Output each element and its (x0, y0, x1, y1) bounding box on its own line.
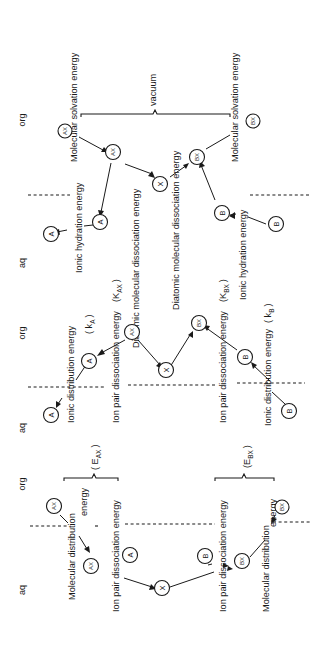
vacuum-label: vacuum (148, 73, 158, 106)
node-a-aq-top: A (44, 227, 59, 242)
E-ax-label: ( EAX) (90, 445, 102, 470)
phase-label-org-bot: org (17, 477, 27, 490)
k-a-label: ( kA) (84, 314, 96, 334)
ion-pair-dissociation-ax-bot-label: Ion pair dissociation energy (111, 500, 121, 612)
K-bx-label: (KBX) (218, 279, 230, 302)
svg-text:A: A (85, 358, 94, 363)
phase-labels: org aq org aq org aq (17, 113, 27, 595)
ion-pair-dissociation-bx-bot-label: Ion pair dissociation energy (218, 500, 228, 612)
node-bx-org-top: BX (190, 150, 205, 165)
node-bx-org-mid: BX (192, 316, 207, 331)
svg-text:AX: AX (51, 502, 57, 510)
svg-text:A: A (47, 412, 56, 417)
phase-label-aq-bot: aq (17, 585, 27, 595)
node-b-aq-top: B (269, 217, 284, 232)
svg-text:BX: BX (194, 153, 200, 161)
svg-text:AX: AX (110, 148, 116, 156)
svg-text:B: B (272, 221, 281, 226)
node-ax-vacuum: AX (58, 124, 72, 138)
svg-text:X: X (156, 181, 165, 186)
ionic-distribution-a-label: Ionic distribution energy (66, 326, 76, 423)
molecular-solvation-bx-label: Molecular solvation energy (230, 52, 240, 162)
ion-pair-dissociation-ax-label: Ion pair dissociation energy (111, 311, 121, 423)
node-ax-aq-bot: AX (84, 559, 99, 574)
k-b-label: ( kB) (263, 303, 275, 323)
svg-text:B: B (218, 210, 227, 215)
svg-text:B: B (201, 553, 210, 558)
ionic-hydration-b-label: Ionic hydration energy (238, 209, 248, 300)
node-ax-org-bot: AX (47, 499, 62, 514)
node-a-org-top: A (93, 215, 108, 230)
node-a-aq-bot: A (123, 548, 138, 563)
svg-text:A: A (126, 552, 135, 557)
middle-panel: Ionic distribution energy ( kA) Ion pair… (44, 279, 297, 426)
node-b-aq-bot: B (198, 549, 213, 564)
svg-text:BX: BX (279, 503, 285, 511)
molecular-distribution-ax-label-2: energy (79, 488, 89, 516)
svg-text:X: X (158, 585, 167, 590)
node-a-aq-mid: A (44, 408, 59, 423)
node-b-aq-mid: B (282, 404, 297, 419)
node-bx-aq-bot: BX (235, 554, 250, 569)
molecular-distribution-bx-label-1: Molecular distribution (261, 525, 271, 612)
node-x-top: X (153, 177, 168, 192)
svg-text:B: B (241, 354, 250, 359)
svg-text:AX: AX (62, 127, 68, 135)
svg-text:BX: BX (250, 117, 256, 125)
node-x-mid: X (159, 363, 174, 378)
svg-text:A: A (47, 231, 56, 236)
vacuum-brace (81, 110, 230, 117)
svg-text:A: A (96, 219, 105, 224)
node-b-org-top: B (215, 206, 230, 221)
ion-pair-dissociation-bx-label: Ion pair dissociation energy (218, 311, 228, 423)
node-ax-org-mid: AX (125, 325, 140, 340)
ionic-hydration-a-label: Ionic hydration energy (74, 182, 84, 273)
svg-text:B: B (285, 408, 294, 413)
bottom-panel: ( EAX) (EBX) Molecular distribution ener… (47, 445, 290, 612)
svg-text:BX: BX (239, 557, 245, 565)
svg-text:AX: AX (88, 562, 94, 570)
E-bx-label: (EBX) (242, 445, 254, 468)
node-ax-org-top: AX (106, 145, 121, 160)
diatomic-dissociation-bx-label: Diatomic molecular dissociation energy (171, 150, 181, 310)
K-ax-label: (KAX) (111, 279, 123, 302)
node-bx-vacuum: BX (246, 114, 260, 128)
e-bx-brace (215, 474, 274, 481)
molecular-solvation-ax-label: Molecular solvation energy (69, 52, 79, 162)
ionic-distribution-b-label: Ionic distribution energy (263, 329, 273, 426)
phase-label-aq-mid: aq (17, 423, 27, 433)
phase-label-aq-top: aq (17, 258, 27, 268)
phase-label-org-mid: org (17, 326, 27, 339)
svg-text:AX: AX (129, 328, 135, 336)
node-x-bot: X (155, 581, 170, 596)
e-ax-brace (64, 474, 118, 481)
node-a-org-mid: A (82, 354, 97, 369)
molecular-distribution-ax-label-1: Molecular distribution (67, 513, 77, 600)
node-bx-org-bot: BX (275, 500, 289, 514)
svg-text:X: X (162, 367, 171, 372)
top-panel: vacuum Molecular solvation energy Molecu… (44, 52, 284, 348)
energy-cycle-diagram: org aq org aq org aq vacuum Molecular so… (0, 0, 325, 667)
phase-label-aq-1: org (17, 113, 27, 126)
node-b-org-mid: B (238, 350, 253, 365)
svg-text:BX: BX (196, 319, 202, 327)
